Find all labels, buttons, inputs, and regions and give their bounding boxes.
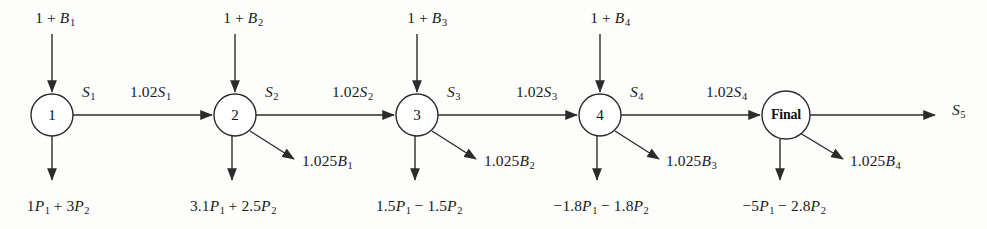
outflow-label: 1P1 + 3P2 — [27, 198, 89, 214]
inflow-label: 1 + B4 — [590, 10, 630, 26]
waste-arrow — [615, 131, 659, 159]
outflow-label: −5P1 − 2.8P2 — [742, 198, 825, 214]
flow-label: 1.02S3 — [516, 84, 557, 100]
inflow-label: 1 + B3 — [407, 10, 447, 26]
flow-label: 1.02S4 — [706, 84, 747, 100]
waste-arrow — [250, 131, 294, 159]
inflow-label: 1 + B2 — [223, 10, 263, 26]
outflow-label: 1.5P1 − 1.5P2 — [376, 198, 462, 214]
waste-label: 1.025B2 — [484, 153, 534, 169]
outflow-label: 3.1P1 + 2.5P2 — [190, 198, 276, 214]
waste-arrow — [800, 133, 843, 159]
process-node-label-4: 4 — [596, 107, 604, 124]
waste-label: 1.025B4 — [850, 153, 900, 169]
waste-label: 1.025B3 — [666, 153, 716, 169]
diagram-canvas — [0, 0, 987, 229]
process-node-label-3: 3 — [413, 107, 421, 124]
flow-label: S3 — [447, 84, 460, 100]
waste-label: 1.025B1 — [302, 153, 352, 169]
flow-label: S1 — [82, 84, 95, 100]
inflow-label: 1 + B1 — [35, 10, 75, 26]
process-node-label-final: Final — [771, 107, 801, 123]
flow-label: 1.02S2 — [332, 84, 373, 100]
process-flow-diagram: 1234Final1 + B11 + B21 + B31 + B4S11.02S… — [0, 0, 987, 229]
outflow-label: −1.8P1 − 1.8P2 — [554, 198, 649, 214]
process-node-label-1: 1 — [48, 107, 56, 124]
flow-label: S4 — [630, 84, 643, 100]
flow-label: S2 — [265, 84, 278, 100]
flow-label: 1.02S1 — [130, 84, 171, 100]
process-node-label-2: 2 — [231, 107, 239, 124]
waste-arrow — [432, 131, 476, 159]
flow-label: S5 — [952, 102, 965, 118]
